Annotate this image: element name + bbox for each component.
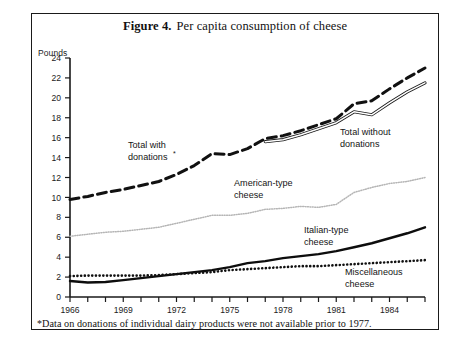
x-axis: 1966196919721975197819811984 <box>60 297 425 315</box>
y-tick-label: 10 <box>51 193 61 203</box>
x-tick-label: 1969 <box>114 305 133 315</box>
series-label-4: Italian-typecheese <box>304 225 348 247</box>
y-tick-label: 0 <box>56 292 61 302</box>
x-tick-label: 1981 <box>327 305 346 315</box>
y-tick-label: 12 <box>51 173 61 183</box>
series-label-5: Miscellaneouscheese <box>345 267 403 289</box>
svg-text:donations: donations <box>340 139 380 149</box>
svg-text:cheese: cheese <box>304 237 333 247</box>
y-tick-group: 024681012141618202224 <box>51 53 70 302</box>
x-tick-label: 1984 <box>380 305 399 315</box>
y-tick-label: 6 <box>56 232 61 242</box>
svg-text:cheese: cheese <box>234 190 263 200</box>
y-tick-label: 4 <box>56 252 61 262</box>
y-axis: 024681012141618202224 <box>51 53 70 302</box>
x-tick-label: 1972 <box>167 305 186 315</box>
svg-text:Total without: Total without <box>340 127 391 137</box>
chart-plot: 024681012141618202224 196619691972197519… <box>0 0 471 344</box>
y-tick-label: 8 <box>56 212 61 222</box>
series-label-1: Total withdonations* <box>128 140 176 162</box>
y-tick-label: 2 <box>56 272 61 282</box>
figure-container: Figure 4.Per capita consumption of chees… <box>0 0 471 344</box>
figure-footnote: *Data on donations of individual dairy p… <box>37 318 372 329</box>
series-label-2: Total withoutdonations <box>340 127 391 149</box>
series-group <box>70 68 425 283</box>
footnote-superscript: * <box>173 150 176 157</box>
y-tick-label: 24 <box>51 53 61 63</box>
x-tick-group: 1966196919721975197819811984 <box>60 297 425 315</box>
svg-text:cheese: cheese <box>345 279 374 289</box>
svg-text:Italian-type: Italian-type <box>304 225 348 235</box>
x-tick-label: 1966 <box>60 305 79 315</box>
svg-text:donations: donations <box>128 152 168 162</box>
x-tick-label: 1975 <box>220 305 239 315</box>
y-tick-label: 14 <box>51 153 61 163</box>
svg-text:American-type: American-type <box>234 178 293 188</box>
series-label-3: American-typecheese <box>234 178 293 200</box>
y-tick-label: 22 <box>51 73 61 83</box>
y-tick-label: 16 <box>51 133 61 143</box>
svg-text:Miscellaneous: Miscellaneous <box>345 267 403 277</box>
x-tick-label: 1978 <box>273 305 292 315</box>
svg-text:Total with: Total with <box>128 140 166 150</box>
footnote-text: Data on donations of individual dairy pr… <box>42 318 372 329</box>
y-tick-label: 20 <box>51 93 61 103</box>
y-tick-label: 18 <box>51 113 61 123</box>
